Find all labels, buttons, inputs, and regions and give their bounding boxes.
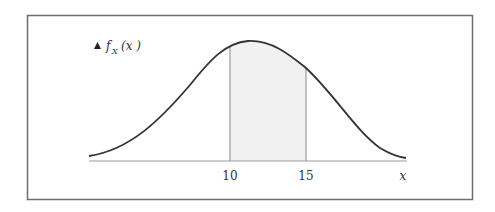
density-figure: f X (x ) 10 15 x [0,0,495,212]
axis-arrow-icon [94,42,101,49]
x-axis-label: x [400,169,407,183]
ylabel-argument: (x ) [121,39,141,53]
tick-label-10: 10 [222,169,237,183]
ylabel-subscript: X [111,47,118,56]
tick-label-15: 15 [298,169,313,183]
